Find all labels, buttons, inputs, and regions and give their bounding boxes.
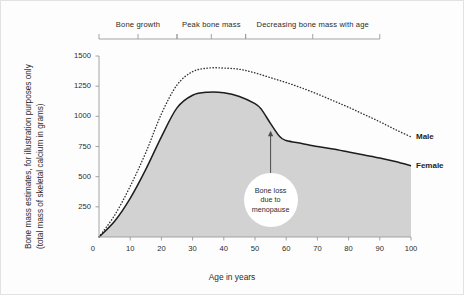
x-tick-label: 100 [399,244,423,253]
x-tick-label: 30 [181,244,205,253]
y-axis-title-line1: Bone mass estimates, for illustration pu… [23,64,34,249]
bone-loss-callout: Bone loss due to menopause [244,173,298,227]
callout-line3: menopause [252,205,290,214]
y-tick-label: 1250 [59,81,91,90]
callout-text: Bone loss due to menopause [252,186,290,215]
x-tick-label: 70 [305,244,329,253]
x-tick-label: 40 [212,244,236,253]
callout-line1: Bone loss [255,186,287,195]
bone-mass-chart-figure: Bone growthPeak bone massDecreasing bone… [0,0,464,295]
y-tick-label: 750 [59,142,91,151]
y-tick-label: 500 [59,172,91,181]
y-tick-label: 1500 [59,51,91,60]
series-label-female: Female [416,161,444,170]
x-tick-label: 50 [243,244,267,253]
x-tick-label: 90 [368,244,392,253]
y-axis-title-line2: (total mass of skeletal calcium in grams… [35,103,46,249]
y-tick-label: 0 [85,244,95,253]
x-tick-label: 60 [274,244,298,253]
x-axis-title: Age in years [1,272,463,282]
series-label-male: Male [416,132,434,141]
callout-line2: due to [261,195,281,204]
x-tick-label: 10 [118,244,142,253]
phase-brackets [99,34,380,39]
x-tick-label: 20 [149,244,173,253]
x-tick-label: 80 [337,244,361,253]
y-tick-label: 1000 [59,111,91,120]
phase-bracket-label: Decreasing bone mass with age [223,20,403,29]
y-tick-label: 250 [59,202,91,211]
